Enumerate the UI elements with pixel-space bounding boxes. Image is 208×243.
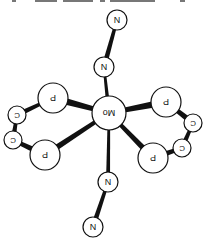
- atom-label: C: [10, 136, 16, 145]
- atom-label: N: [90, 222, 97, 232]
- cropped-caption-fragment: [0, 0, 208, 4]
- atom-label: P: [50, 93, 56, 103]
- atom-label: C: [179, 144, 185, 153]
- atom-label: N: [114, 15, 121, 25]
- atom-label: N: [101, 62, 108, 72]
- atom-c2: C: [4, 131, 22, 149]
- atom-label: C: [14, 111, 20, 120]
- molecule-svg: NNMoNNPPPPCCCC: [0, 0, 208, 243]
- atom-c4: C: [173, 139, 191, 157]
- atom-p4: P: [138, 143, 168, 173]
- atom-mo: Mo: [92, 96, 126, 130]
- atom-c3: C: [184, 114, 202, 132]
- atom-label: N: [105, 177, 112, 187]
- atom-n1: N: [107, 10, 127, 30]
- atom-p3: P: [151, 87, 181, 117]
- atom-label: P: [42, 150, 48, 160]
- atom-n3: N: [98, 172, 118, 192]
- atom-c1: C: [8, 106, 26, 124]
- atom-n4: N: [83, 217, 103, 237]
- atom-label: Mo: [103, 108, 116, 118]
- atom-n2: N: [94, 57, 114, 77]
- atom-p2: P: [30, 140, 60, 170]
- atom-label: P: [150, 153, 156, 163]
- atom-p1: P: [38, 83, 68, 113]
- atom-label: C: [190, 119, 196, 128]
- atom-label: P: [163, 97, 169, 107]
- molecule-diagram: NNMoNNPPPPCCCC: [0, 0, 208, 243]
